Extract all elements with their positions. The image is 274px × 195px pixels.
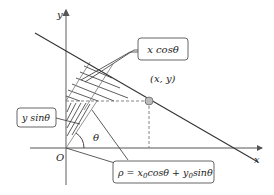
angle-arc (76, 133, 84, 148)
point-label: (x, y) (150, 73, 176, 84)
origin-label: O (56, 152, 64, 163)
hough-diagram: x cosθ y sinθ ρ = x0cosθ + y0sinθ (x, y)… (0, 0, 274, 195)
hatch-boundary-2 (84, 64, 113, 110)
hatch-lower (67, 103, 90, 136)
y-axis-label: y (56, 9, 63, 20)
angle-label: θ (93, 132, 99, 143)
callout-x-cos: x cosθ (147, 44, 179, 55)
callout-y-sin: y sinθ (21, 112, 50, 123)
point-marker (145, 97, 153, 105)
leader-rho-2 (66, 148, 118, 164)
x-axis-label: x (254, 154, 260, 165)
